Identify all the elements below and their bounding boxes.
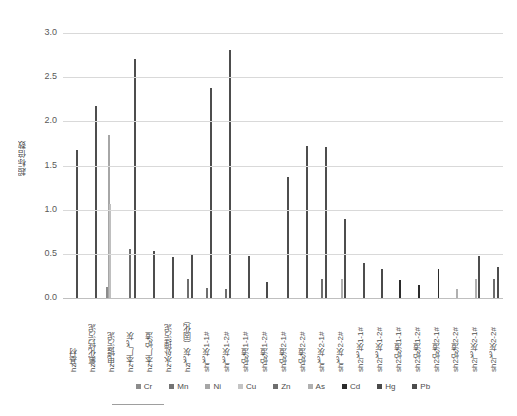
legend-item[interactable]: Ni xyxy=(205,382,221,391)
legend-item[interactable]: Cu xyxy=(238,382,256,391)
x-tick-label: sh2炉渣2-2# xyxy=(451,302,460,372)
x-tick-label: sh2飞灰1-2# xyxy=(375,302,384,372)
bar xyxy=(287,177,289,298)
y-tick-label: 2.0 xyxy=(27,115,57,125)
chart-container: 超标倍数 3.02.52.01.51.00.50.0 hz基材hz氟化钙污泥hz… xyxy=(0,0,517,416)
legend-swatch-icon xyxy=(205,384,210,389)
x-tick-label: sh2炉渣1-2# xyxy=(413,302,422,372)
legend-label: Zn xyxy=(281,382,290,391)
x-tick-label: hz本厂炉渣 xyxy=(145,302,154,372)
x-tick-label: sh2飞灰2-1# xyxy=(470,302,479,372)
legend-swatch-icon xyxy=(169,384,174,389)
bar xyxy=(325,147,327,298)
bar xyxy=(129,249,131,298)
legend-swatch-icon xyxy=(136,384,141,389)
legend-label: Cr xyxy=(144,382,152,391)
gridline: 1.0 xyxy=(63,210,503,211)
bar xyxy=(321,279,323,298)
x-tick-label: sh飞灰2-2# xyxy=(336,302,345,372)
bar xyxy=(248,256,250,298)
x-tick-label: hz氟化钙污泥 xyxy=(88,302,97,372)
legend-item[interactable]: Cd xyxy=(342,382,360,391)
gridline: 3.0 xyxy=(63,33,503,34)
bar xyxy=(172,257,174,298)
x-axis-labels: hz基材hz氟化钙污泥hz电镀污泥hz本厂飞灰hz本厂炉渣hz水处理污泥hz飞灰… xyxy=(63,300,503,372)
bar xyxy=(344,219,346,299)
legend-item[interactable]: Zn xyxy=(273,382,290,391)
y-tick-label: 1.0 xyxy=(27,204,57,214)
legend-label: Ni xyxy=(213,382,221,391)
x-tick-label: sh飞灰1-2# xyxy=(222,302,231,372)
bar xyxy=(191,255,193,298)
x-tick-label: hz水处理污泥 xyxy=(164,302,173,372)
bar xyxy=(456,289,458,298)
bar xyxy=(266,282,268,298)
x-tick-label: sh2炉渣2-1# xyxy=(432,302,441,372)
y-tick-label: 3.0 xyxy=(27,27,57,37)
bar xyxy=(206,288,208,298)
bar xyxy=(187,279,189,298)
legend-label: Cu xyxy=(246,382,256,391)
y-tick-label: 2.5 xyxy=(27,71,57,81)
caption-rule xyxy=(112,404,164,405)
legend-swatch-icon xyxy=(273,384,278,389)
gridline: 1.5 xyxy=(63,166,503,167)
x-tick-label: sh飞灰1-1# xyxy=(202,302,211,372)
bar xyxy=(341,279,343,298)
legend-item[interactable]: Pb xyxy=(412,382,430,391)
bar xyxy=(493,279,495,298)
x-tick-label: sh炉渣2-1# xyxy=(279,302,288,372)
legend-swatch-icon xyxy=(412,384,417,389)
bar xyxy=(418,285,420,298)
bar xyxy=(363,263,365,298)
legend-item[interactable]: As xyxy=(308,382,325,391)
gridline: 2.5 xyxy=(63,77,503,78)
legend-swatch-icon xyxy=(377,384,382,389)
bar xyxy=(306,146,308,298)
plot-area: 3.02.52.01.51.00.50.0 xyxy=(63,33,503,298)
bar xyxy=(229,50,231,298)
bar xyxy=(381,269,383,298)
bar xyxy=(109,204,111,298)
legend-label: Hg xyxy=(385,382,395,391)
y-tick-label: 1.5 xyxy=(27,160,57,170)
legend-label: Mn xyxy=(177,382,188,391)
bar xyxy=(210,88,212,298)
legend-swatch-icon xyxy=(238,384,243,389)
bar xyxy=(76,150,78,298)
bar xyxy=(225,289,227,298)
chart-legend: CrMnNiCuZnAsCdHgPb xyxy=(63,379,503,393)
y-axis-title: 超标倍数 xyxy=(18,140,32,176)
x-tick-label: hz基材 xyxy=(69,302,78,372)
x-tick-label: sh2飞灰2-2# xyxy=(489,302,498,372)
legend-item[interactable]: Mn xyxy=(169,382,188,391)
legend-item[interactable]: Hg xyxy=(377,382,395,391)
legend-label: As xyxy=(316,382,325,391)
legend-swatch-icon xyxy=(308,384,313,389)
bar xyxy=(475,279,477,298)
y-tick-label: 0.0 xyxy=(27,292,57,302)
x-tick-label: sh2飞灰1-1# xyxy=(356,302,365,372)
legend-label: Cd xyxy=(350,382,360,391)
x-tick-label: sh炉渣1-1# xyxy=(241,302,250,372)
bar xyxy=(95,106,97,298)
x-tick-label: sh2炉渣1-1# xyxy=(394,302,403,372)
bar xyxy=(399,280,401,298)
bar xyxy=(478,256,480,298)
x-tick-label: hz本厂飞灰 xyxy=(126,302,135,372)
x-tick-label: hz飞灰（固化） xyxy=(183,302,192,372)
bar xyxy=(438,269,440,298)
legend-label: Pb xyxy=(420,382,430,391)
bar xyxy=(153,251,155,298)
legend-item[interactable]: Cr xyxy=(136,382,152,391)
x-tick-label: sh炉渣2-2# xyxy=(298,302,307,372)
axis-baseline: 0.0 xyxy=(63,298,503,299)
gridline: 0.5 xyxy=(63,254,503,255)
bar xyxy=(497,267,499,298)
x-tick-label: sh炉渣1-2# xyxy=(260,302,269,372)
legend-swatch-icon xyxy=(342,384,347,389)
x-tick-label: sh飞灰2-1# xyxy=(317,302,326,372)
gridline: 2.0 xyxy=(63,121,503,122)
bar xyxy=(134,59,136,298)
x-tick-label: hz电镀污泥 xyxy=(107,302,116,372)
